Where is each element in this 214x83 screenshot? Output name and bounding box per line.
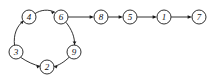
node-4[interactable]: 4 [22, 10, 36, 24]
edge-3-to-2 [21, 58, 40, 69]
edge-path-3-2 [21, 58, 40, 67]
arrow-head-5-1 [153, 15, 157, 19]
node-9[interactable]: 9 [67, 45, 81, 59]
edge-9-to-2 [54, 57, 69, 68]
node-2[interactable]: 2 [40, 60, 54, 74]
node-label-4: 4 [27, 12, 32, 22]
node-5[interactable]: 5 [123, 10, 137, 24]
arrow-head-1-7 [188, 15, 192, 19]
node-label-7: 7 [197, 12, 202, 22]
graph-canvas: 4 6 8 5 1 7 [0, 0, 214, 83]
edge-path-3-4 [14, 21, 23, 45]
arrow-head-8-5 [119, 15, 123, 19]
edge-8-to-5 [109, 15, 124, 19]
node-label-1: 1 [162, 12, 167, 22]
graph-diagram: 4 6 8 5 1 7 [0, 0, 214, 83]
node-group: 4 6 8 5 1 7 [9, 10, 206, 74]
arrow-head-6-9 [73, 41, 77, 44]
edge-5-to-1 [138, 15, 158, 19]
node-1[interactable]: 1 [157, 10, 171, 24]
node-6[interactable]: 6 [54, 10, 68, 24]
edge-4-to-6 [35, 10, 55, 14]
node-label-9: 9 [72, 47, 77, 57]
arrow-head-6-8 [90, 15, 94, 19]
node-label-6: 6 [59, 12, 64, 22]
node-label-5: 5 [128, 12, 133, 22]
edge-path-9-2 [54, 57, 69, 66]
edge-6-to-8 [69, 15, 95, 19]
node-label-3: 3 [13, 47, 19, 57]
node-7[interactable]: 7 [192, 10, 206, 24]
edge-path-6-9 [66, 23, 74, 45]
node-label-2: 2 [45, 62, 50, 72]
edge-1-to-7 [172, 15, 193, 19]
node-3[interactable]: 3 [9, 45, 23, 59]
node-8[interactable]: 8 [94, 10, 108, 24]
edge-3-to-4 [14, 21, 23, 45]
edge-6-to-9 [66, 23, 76, 45]
node-label-8: 8 [99, 12, 104, 22]
